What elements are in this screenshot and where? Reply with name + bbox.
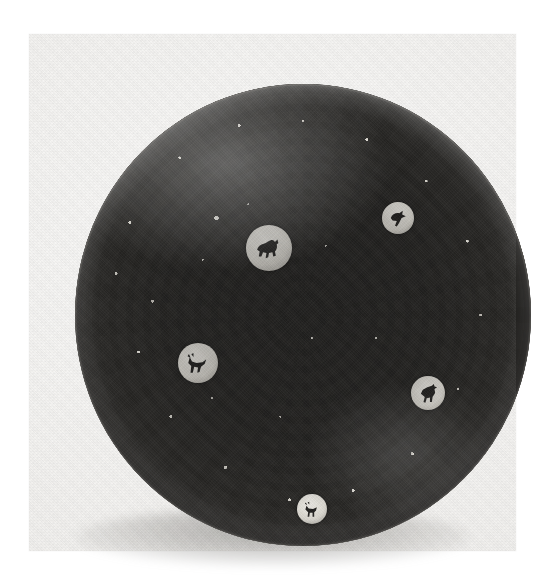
image-caption xyxy=(0,16,1,17)
page-root: Black-and-white photograph of a domed cl… xyxy=(0,0,548,576)
image-alt-text: Black-and-white photograph of a domed cl… xyxy=(0,16,1,17)
image-subject: Close-packed millefiori glass paperweigh… xyxy=(0,16,1,17)
photo-print xyxy=(29,34,516,551)
silhouette-cane-rooster xyxy=(411,376,445,410)
millefiori-paperweight xyxy=(75,84,531,546)
silhouette-cane-goat xyxy=(246,225,292,271)
silhouette-cane-deer xyxy=(297,494,327,524)
silhouette-cane-bird xyxy=(382,202,414,234)
silhouette-cane-stag xyxy=(178,343,218,383)
cane-interstitial-shading xyxy=(75,84,531,546)
